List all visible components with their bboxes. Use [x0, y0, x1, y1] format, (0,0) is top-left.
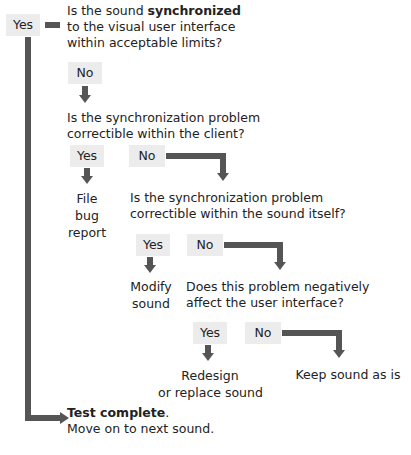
q3-no-vertical-line [277, 242, 283, 263]
q3-yes-label: Yes [136, 234, 170, 256]
q2-yes-label: Yes [70, 145, 104, 167]
test-complete-text: Test complete. Move on to next sound. [67, 405, 214, 437]
q1-yes-horizontal-line [25, 415, 61, 421]
q4-yes-result: Redesign or replace sound [158, 367, 262, 401]
q2-no-arrow-head-icon [217, 173, 229, 181]
q2-no-label: No [129, 145, 165, 167]
q4-yes-label: Yes [193, 322, 227, 344]
q3-yes-arrow-head-icon [144, 265, 156, 273]
q2-no-horizontal-line [166, 153, 223, 159]
q1-yes-connector [45, 22, 60, 28]
q1-no-label: No [68, 62, 102, 84]
q4-no-result: Keep sound as is [292, 367, 404, 383]
q2-no-vertical-line [220, 153, 226, 174]
q3-no-arrow-head-icon [274, 262, 286, 270]
q4-no-horizontal-line [282, 330, 339, 336]
q3-no-label: No [187, 234, 223, 256]
q1-yes-label: Yes [6, 14, 40, 36]
test-complete-bold: Test complete [67, 405, 165, 420]
q1-yes-vertical-line [25, 37, 31, 421]
q3-question: Is the synchronization problem correctib… [130, 190, 346, 222]
q4-yes-arrow-head-icon [202, 353, 214, 361]
q1-no-arrow-head-icon [79, 95, 91, 103]
q2-question: Is the synchronization problem correctib… [67, 110, 260, 142]
q2-yes-arrow-head-icon [81, 176, 93, 184]
q4-no-label: No [245, 322, 281, 344]
q1-bold-term: synchronized [148, 3, 241, 18]
q2-yes-result: File bug report [62, 190, 112, 241]
q4-no-arrow-head-icon [333, 350, 345, 358]
q4-question: Does this problem negatively affect the … [186, 279, 369, 311]
q4-no-vertical-line [336, 330, 342, 351]
q1-no-arrow-shaft [82, 86, 88, 95]
q3-yes-result: Modify sound [124, 278, 178, 312]
q1-question: Is the sound synchronized to the visual … [67, 3, 241, 51]
q3-no-horizontal-line [224, 242, 280, 248]
